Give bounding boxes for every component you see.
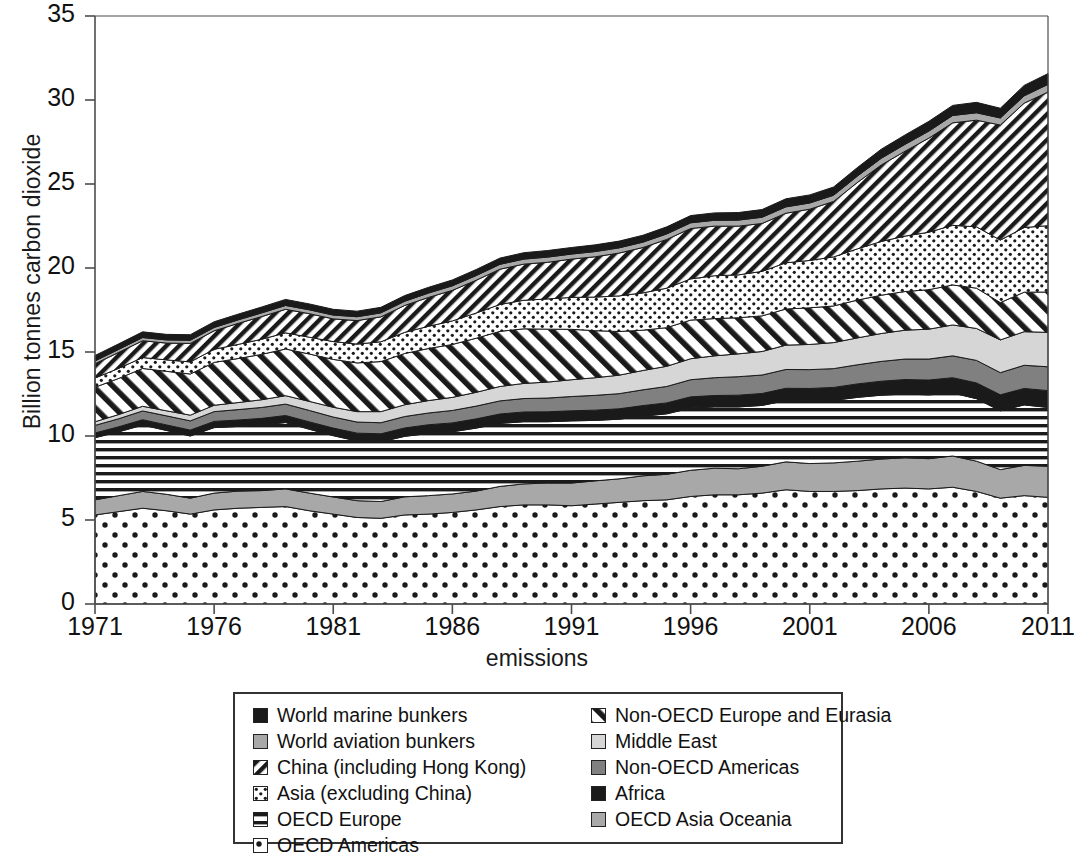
legend-label: Non-OECD Americas [615, 758, 799, 777]
legend-label: OECD Americas [277, 836, 419, 855]
x-tick-label: 1986 [392, 612, 512, 641]
x-tick-label: 2011 [988, 612, 1079, 641]
legend-item[interactable]: Non-OECD Americas [591, 756, 841, 779]
x-tick-label: 2006 [869, 612, 989, 641]
legend-label: World marine bunkers [277, 706, 467, 725]
y-tick-label: 20 [15, 251, 75, 280]
y-tick-label: 15 [15, 335, 75, 364]
legend-item[interactable]: OECD Americas [253, 834, 567, 857]
y-tick-label: 5 [15, 503, 75, 532]
legend-column-1: World marine bunkersWorld aviation bunke… [253, 704, 567, 857]
x-axis-label: emissions [0, 645, 1074, 672]
legend-item[interactable]: Africa [591, 782, 841, 805]
x-tick-label: 1981 [273, 612, 393, 641]
legend-item[interactable]: World aviation bunkers [253, 730, 567, 753]
x-tick-label: 2001 [750, 612, 870, 641]
y-tick-label: 25 [15, 167, 75, 196]
legend-item[interactable]: World marine bunkers [253, 704, 567, 727]
legend-label: OECD Europe [277, 810, 402, 829]
legend-swatch-diag-fwd-icon [253, 760, 268, 775]
legend-label: China (including Hong Kong) [277, 758, 526, 777]
legend-label: Middle East [615, 732, 717, 751]
y-tick-label: 35 [15, 0, 75, 28]
area-series-group [95, 74, 1048, 604]
legend-swatch-solid-midgray-icon [591, 760, 606, 775]
legend-swatch-solid-black-icon [591, 786, 606, 801]
legend-label: Africa [615, 784, 665, 803]
legend-label: Non-OECD Europe and Eurasia [615, 706, 891, 725]
x-tick-label: 1991 [512, 612, 632, 641]
legend-column-2: Non-OECD Europe and EurasiaMiddle EastNo… [591, 704, 841, 857]
legend-label: Asia (excluding China) [277, 784, 472, 803]
y-tick-label: 10 [15, 419, 75, 448]
legend-item[interactable]: OECD Asia Oceania [591, 808, 841, 831]
legend-swatch-solid-lightgray-icon [591, 734, 606, 749]
legend-swatch-solid-gray-icon [253, 734, 268, 749]
legend-swatch-solid-gray-icon [591, 812, 606, 827]
legend-item[interactable]: Asia (excluding China) [253, 782, 567, 805]
chart-legend: World marine bunkersWorld aviation bunke… [233, 692, 843, 844]
stacked-area-chart [0, 0, 1074, 640]
x-tick-label: 1976 [154, 612, 274, 641]
legend-item[interactable]: China (including Hong Kong) [253, 756, 567, 779]
legend-item[interactable]: Middle East [591, 730, 841, 753]
legend-item[interactable]: OECD Europe [253, 808, 567, 831]
legend-swatch-dots-fine-icon [253, 786, 268, 801]
legend-swatch-horizontal-lines-icon [253, 812, 268, 827]
legend-label: OECD Asia Oceania [615, 810, 792, 829]
x-tick-label: 1996 [631, 612, 751, 641]
legend-item[interactable]: Non-OECD Europe and Eurasia [591, 704, 841, 727]
x-tick-label: 1971 [35, 612, 155, 641]
legend-swatch-dots-sparse-icon [253, 838, 268, 853]
legend-label: World aviation bunkers [277, 732, 475, 751]
legend-swatch-solid-black-icon [253, 708, 268, 723]
y-tick-label: 30 [15, 83, 75, 112]
legend-swatch-diag-back-icon [591, 708, 606, 723]
